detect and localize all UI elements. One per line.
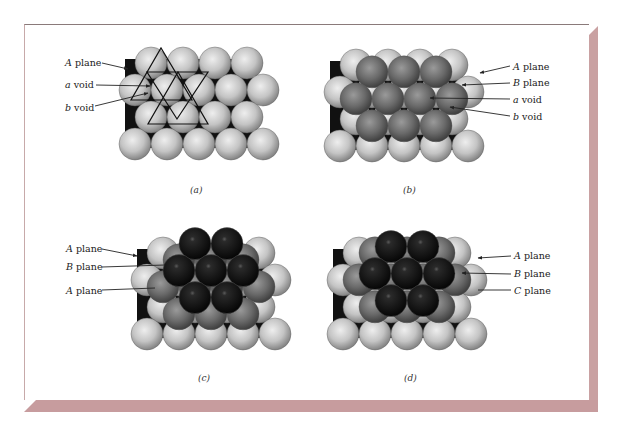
label-b-plane: B plane (512, 77, 550, 88)
sphere-layer-top (195, 255, 227, 287)
sphere-layer-a (215, 74, 247, 106)
caption-c: (c) (198, 373, 211, 383)
sphere-layer-b (388, 110, 420, 142)
panel-b (324, 49, 484, 162)
sphere-layer-top (227, 255, 259, 287)
leader-line (102, 63, 128, 69)
label-a-void: a void (513, 94, 542, 105)
panel-d (327, 231, 487, 350)
sphere-layer-a (215, 128, 247, 160)
sphere-layer-b (356, 110, 388, 142)
close-packing-figure: A plane a void b void (a) A plane B plan… (0, 0, 619, 442)
label-a-plane: A plane (512, 61, 550, 72)
sphere-layer-top (179, 282, 211, 314)
sphere-layer-a (119, 128, 151, 160)
sphere-layer-a (151, 128, 183, 160)
caption-b: (b) (403, 185, 416, 195)
label-a-plane: A plane (513, 250, 551, 261)
sphere-layer-top (407, 231, 439, 263)
sphere-layer-a (167, 47, 199, 79)
sphere-layer-a (199, 47, 231, 79)
sphere-layer-a (455, 318, 487, 350)
label-b-void: b void (513, 111, 542, 122)
sphere-layer-a (231, 47, 263, 79)
leader-line (478, 256, 511, 258)
sphere-layer-a (452, 130, 484, 162)
sphere-layer-top (163, 255, 195, 287)
sphere-layer-a (324, 130, 356, 162)
label-a-void: a void (65, 79, 94, 90)
sphere-layer-a (135, 47, 167, 79)
sphere-layer-top (359, 258, 391, 290)
panel-a (119, 47, 279, 160)
sphere-layer-b (388, 56, 420, 88)
panel-c (131, 228, 291, 350)
sphere-layer-a (167, 101, 199, 133)
sphere-layer-a (327, 318, 359, 350)
label-a-plane-lower: A plane (65, 285, 103, 296)
sphere-layer-a (183, 128, 215, 160)
sphere-layer-a (247, 74, 279, 106)
sphere-layer-top (211, 282, 243, 314)
leader-line (102, 249, 137, 256)
sphere-layer-b (404, 83, 436, 115)
sphere-layer-top (179, 228, 211, 260)
sphere-layer-a (259, 318, 291, 350)
leader-line (480, 66, 510, 73)
sphere-layer-a (131, 318, 163, 350)
label-b-void: b void (65, 102, 94, 113)
label-a-plane: A plane (65, 243, 103, 254)
sphere-layer-a (231, 101, 263, 133)
caption-d: (d) (404, 373, 417, 383)
label-b-plane: B plane (513, 268, 551, 279)
label-c-plane: C plane (514, 285, 551, 296)
sphere-layer-b (340, 83, 372, 115)
label-b-plane: B plane (65, 261, 103, 272)
sphere-layer-a (119, 74, 151, 106)
caption-a: (a) (190, 185, 203, 195)
sphere-layer-a (135, 101, 167, 133)
sphere-layer-b (420, 56, 452, 88)
sphere-layer-top (423, 258, 455, 290)
label-a-plane: A plane (64, 57, 102, 68)
sphere-layer-b (372, 83, 404, 115)
sphere-layer-b (356, 56, 388, 88)
sphere-layer-top (375, 285, 407, 317)
sphere-layer-b (420, 110, 452, 142)
sphere-layer-top (375, 231, 407, 263)
sphere-layer-top (407, 285, 439, 317)
sphere-layer-a (247, 128, 279, 160)
sphere-layer-top (391, 258, 423, 290)
sphere-layer-top (211, 228, 243, 260)
